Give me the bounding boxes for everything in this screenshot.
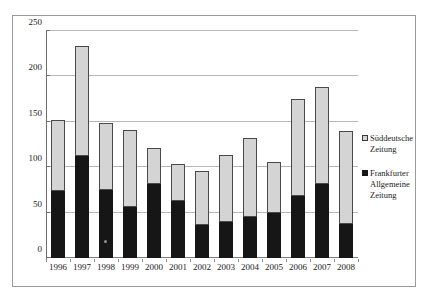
- scan-artifact-speck: [104, 240, 107, 243]
- gridline-150: [46, 121, 358, 122]
- bar-segment-suddeutsche-zeitung[interactable]: [315, 87, 329, 184]
- x-axis-tick-labels: 1996199719981999200020012002200320042005…: [46, 262, 358, 278]
- bar-segment-frankfurter-allgemeine-zeitung[interactable]: [291, 196, 305, 258]
- light-gray-swatch-icon: [362, 135, 368, 141]
- x-tick-label-2006: 2006: [285, 262, 311, 272]
- bar-segment-frankfurter-allgemeine-zeitung[interactable]: [171, 201, 185, 258]
- bar-segment-frankfurter-allgemeine-zeitung[interactable]: [219, 222, 233, 258]
- x-tickmark: [262, 259, 263, 262]
- x-tickmark: [46, 259, 47, 262]
- bar-group[interactable]: [291, 99, 305, 258]
- legend-entry-suddeutsche-zeitung: Süddeutsche Zeitung: [362, 133, 418, 155]
- x-tickmark: [70, 259, 71, 262]
- x-tick-label-2008: 2008: [333, 262, 359, 272]
- bar-segment-suddeutsche-zeitung[interactable]: [267, 162, 281, 213]
- bar-segment-suddeutsche-zeitung[interactable]: [123, 130, 137, 207]
- x-tickmark: [214, 259, 215, 262]
- bar-segment-frankfurter-allgemeine-zeitung[interactable]: [51, 191, 65, 258]
- bar-group[interactable]: [339, 131, 353, 258]
- x-tick-label-2003: 2003: [213, 262, 239, 272]
- y-tick-label-50: 50: [8, 200, 42, 209]
- bar-segment-frankfurter-allgemeine-zeitung[interactable]: [75, 156, 89, 258]
- x-tick-label-2001: 2001: [165, 262, 191, 272]
- bar-segment-frankfurter-allgemeine-zeitung[interactable]: [339, 224, 353, 259]
- bar-segment-frankfurter-allgemeine-zeitung[interactable]: [195, 225, 209, 258]
- bar-segment-suddeutsche-zeitung[interactable]: [99, 123, 113, 190]
- y-tick-label-200: 200: [8, 63, 42, 72]
- y-tick-label-0: 0: [8, 245, 42, 254]
- bar-group[interactable]: [51, 120, 65, 258]
- bar-segment-suddeutsche-zeitung[interactable]: [243, 138, 257, 217]
- x-tick-label-2000: 2000: [141, 262, 167, 272]
- bar-segment-suddeutsche-zeitung[interactable]: [291, 99, 305, 196]
- chart-legend: Süddeutsche Zeitung Frankfurter Allgemei…: [362, 133, 418, 214]
- bar-segment-suddeutsche-zeitung[interactable]: [339, 131, 353, 224]
- bar-segment-frankfurter-allgemeine-zeitung[interactable]: [123, 207, 137, 258]
- y-tick-label-150: 150: [8, 109, 42, 118]
- gridline-100: [46, 166, 358, 167]
- x-tickmark: [190, 259, 191, 262]
- y-tickmark-200: [46, 75, 50, 76]
- bar-group[interactable]: [171, 164, 185, 258]
- bar-group[interactable]: [75, 46, 89, 258]
- y-tickmark-0: [46, 257, 50, 258]
- x-tick-label-2005: 2005: [261, 262, 287, 272]
- legend-label: Frankfurter Allgemeine Zeitung: [370, 168, 418, 201]
- x-tickmark: [94, 259, 95, 262]
- bar-segment-suddeutsche-zeitung[interactable]: [171, 164, 185, 201]
- y-tick-label-100: 100: [8, 154, 42, 163]
- black-swatch-icon: [362, 170, 368, 176]
- gridline-200: [46, 75, 358, 76]
- x-tickmark: [166, 259, 167, 262]
- bar-segment-frankfurter-allgemeine-zeitung[interactable]: [243, 217, 257, 258]
- bar-segment-suddeutsche-zeitung[interactable]: [75, 46, 89, 157]
- x-tick-label-2004: 2004: [237, 262, 263, 272]
- bar-segment-frankfurter-allgemeine-zeitung[interactable]: [99, 190, 113, 258]
- x-tick-label-1996: 1996: [45, 262, 71, 272]
- bar-segment-suddeutsche-zeitung[interactable]: [219, 155, 233, 222]
- x-tick-label-1997: 1997: [69, 262, 95, 272]
- bar-segment-frankfurter-allgemeine-zeitung[interactable]: [315, 184, 329, 258]
- plot-area: [46, 31, 358, 258]
- bar-group[interactable]: [219, 155, 233, 259]
- x-tickmark: [334, 259, 335, 262]
- y-axis-tick-labels: 050100150200250: [4, 31, 42, 258]
- y-tickmark-150: [46, 121, 50, 122]
- legend-entry-frankfurter-allgemeine-zeitung: Frankfurter Allgemeine Zeitung: [362, 168, 418, 201]
- bar-segment-suddeutsche-zeitung[interactable]: [51, 120, 65, 191]
- y-tickmark-100: [46, 166, 50, 167]
- x-tickmark: [358, 259, 359, 262]
- bar-group[interactable]: [123, 130, 137, 258]
- bar-segment-frankfurter-allgemeine-zeitung[interactable]: [267, 213, 281, 258]
- y-tickmark-250: [46, 30, 50, 31]
- y-tick-label-250: 250: [8, 18, 42, 27]
- bar-group[interactable]: [243, 138, 257, 258]
- bar-group[interactable]: [267, 162, 281, 258]
- legend-label: Süddeutsche Zeitung: [370, 133, 418, 155]
- bar-segment-suddeutsche-zeitung[interactable]: [195, 171, 209, 225]
- x-tickmark: [310, 259, 311, 262]
- x-tick-label-2002: 2002: [189, 262, 215, 272]
- bar-group[interactable]: [147, 148, 161, 258]
- bar-group[interactable]: [195, 171, 209, 258]
- x-tickmark: [142, 259, 143, 262]
- x-tick-label-1999: 1999: [117, 262, 143, 272]
- y-tickmark-50: [46, 212, 50, 213]
- bar-segment-suddeutsche-zeitung[interactable]: [147, 148, 161, 184]
- bar-segment-frankfurter-allgemeine-zeitung[interactable]: [147, 184, 161, 258]
- x-tickmark: [238, 259, 239, 262]
- bar-group[interactable]: [315, 87, 329, 258]
- x-tick-label-2007: 2007: [309, 262, 335, 272]
- gridline-250: [46, 30, 358, 31]
- x-tickmark: [286, 259, 287, 262]
- bar-group[interactable]: [99, 123, 113, 258]
- stacked-bar-chart-figure: 050100150200250 199619971998199920002001…: [0, 0, 444, 303]
- x-tickmark: [118, 259, 119, 262]
- x-tick-label-1998: 1998: [93, 262, 119, 272]
